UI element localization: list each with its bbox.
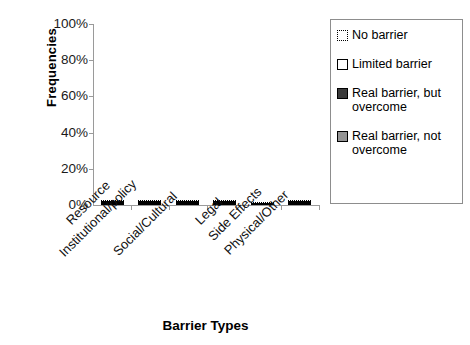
y-tick-mark-40 <box>89 133 94 134</box>
chart-figure: Frequencies 100% 80% 60% 40% 20% 0% <box>0 0 470 345</box>
legend-label-limited-barrier: Limited barrier <box>352 57 432 71</box>
legend-label-real-barrier-not-overcome: Real barrier, not overcome <box>352 129 457 157</box>
segment-real-barrier-not-overcome <box>288 203 311 205</box>
legend-swatch-real-barrier-not-overcome-icon <box>337 131 348 142</box>
legend-swatch-no-barrier-icon <box>337 30 348 41</box>
x-tick-6 <box>319 205 320 210</box>
legend-swatch-real-barrier-overcome-icon <box>337 88 348 99</box>
chart-legend: No barrier Limited barrier Real barrier,… <box>330 19 463 204</box>
x-tick-1 <box>131 205 132 210</box>
legend-swatch-limited-barrier-icon <box>337 59 348 70</box>
bar-stack-5 <box>288 200 311 205</box>
x-axis-title: Barrier Types <box>93 318 318 333</box>
legend-item-limited-barrier: Limited barrier <box>337 57 457 71</box>
legend-item-no-barrier: No barrier <box>337 28 457 42</box>
y-tick-mark-100 <box>89 24 94 25</box>
y-tick-label-40: 40% <box>61 126 88 140</box>
legend-label-real-barrier-overcome: Real barrier, but overcome <box>352 86 457 114</box>
y-tick-label-100: 100% <box>53 17 88 31</box>
y-tick-label-20: 20% <box>61 162 88 176</box>
y-tick-label-80: 80% <box>61 53 88 67</box>
legend-item-real-barrier-overcome: Real barrier, but overcome <box>337 86 457 114</box>
y-tick-mark-20 <box>89 169 94 170</box>
y-tick-mark-80 <box>89 60 94 61</box>
bar-stack-2 <box>176 200 199 205</box>
legend-item-real-barrier-not-overcome: Real barrier, not overcome <box>337 129 457 157</box>
segment-real-barrier-not-overcome <box>176 203 199 205</box>
y-tick-mark-60 <box>89 96 94 97</box>
y-tick-label-60: 60% <box>61 90 88 104</box>
legend-label-no-barrier: No barrier <box>352 28 408 42</box>
